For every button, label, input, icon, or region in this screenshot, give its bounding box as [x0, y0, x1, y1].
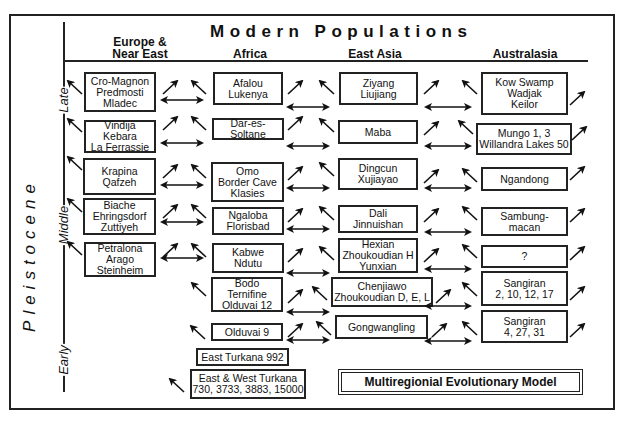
arrow-up-left-icon: [463, 81, 477, 94]
arrow-up-right-icon: [424, 249, 438, 262]
arrow-up-left-icon: [463, 169, 477, 182]
arrow-up-right-icon: [163, 81, 177, 94]
arrow-up-left-icon: [320, 81, 334, 94]
arrow-up-left-icon: [463, 322, 477, 335]
arrow-up-right-icon: [570, 92, 584, 105]
arrow-up-right-icon: [288, 249, 302, 262]
arrow-up-right-icon: [288, 117, 302, 130]
arrow-up-right-icon: [424, 81, 438, 94]
arrow-up-left-icon: [320, 247, 334, 260]
arrow-up-right-icon: [288, 81, 302, 94]
arrow-up-left-icon: [320, 119, 334, 132]
arrow-up-left-icon: [68, 199, 82, 212]
arrow-up-left-icon: [320, 163, 334, 176]
arrow-up-right-icon: [163, 117, 177, 130]
arrow-up-right-icon: [163, 244, 177, 257]
arrow-up-left-icon: [170, 379, 184, 392]
arrow-up-right-icon: [570, 247, 584, 260]
arrow-up-left-icon: [192, 165, 206, 178]
arrow-up-right-icon: [163, 205, 177, 218]
arrow-up-left-icon: [68, 157, 82, 170]
arrow-up-right-icon: [288, 167, 302, 180]
arrow-up-left-icon: [192, 244, 206, 257]
arrow-up-right-icon: [570, 324, 584, 337]
arrow-up-right-icon: [288, 324, 302, 337]
arrows-layer: [0, 0, 627, 426]
arrow-up-left-icon: [459, 121, 473, 134]
arrow-up-left-icon: [463, 207, 477, 220]
arrow-up-left-icon: [192, 81, 206, 94]
arrow-up-left-icon: [463, 245, 477, 258]
arrow-up-right-icon: [432, 324, 446, 337]
arrow-up-left-icon: [68, 81, 82, 94]
arrow-up-right-icon: [288, 209, 302, 222]
arrow-up-left-icon: [463, 283, 477, 296]
arrow-up-right-icon: [288, 290, 302, 303]
arrow-up-right-icon: [572, 127, 586, 140]
arrow-up-left-icon: [317, 322, 331, 335]
arrow-up-left-icon: [192, 205, 206, 218]
arrow-up-left-icon: [192, 117, 206, 130]
arrow-up-right-icon: [436, 290, 450, 303]
arrow-up-left-icon: [320, 207, 334, 220]
arrow-up-right-icon: [424, 170, 438, 183]
arrow-up-left-icon: [68, 119, 82, 132]
arrow-up-right-icon: [570, 167, 584, 180]
arrow-up-left-icon: [192, 283, 206, 296]
arrow-up-right-icon: [570, 209, 584, 222]
arrow-up-right-icon: [424, 209, 438, 222]
arrow-up-left-icon: [191, 326, 205, 339]
arrow-up-right-icon: [163, 165, 177, 178]
arrow-up-left-icon: [68, 242, 82, 255]
arrow-up-left-icon: [313, 287, 327, 300]
arrow-up-right-icon: [570, 287, 584, 300]
arrow-up-right-icon: [424, 122, 438, 135]
